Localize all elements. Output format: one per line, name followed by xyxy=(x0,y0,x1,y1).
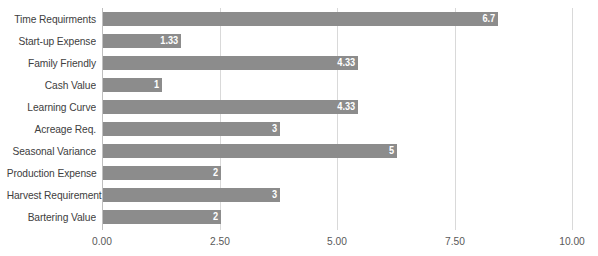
bar-value-label: 2 xyxy=(112,166,221,180)
x-axis: 0.002.505.007.5010.00 xyxy=(0,233,598,253)
bar-row: Seasonal Variance5 xyxy=(0,140,598,162)
x-tick-label: 2.50 xyxy=(210,233,230,249)
bar-row: Start-up Expense1.33 xyxy=(0,30,598,52)
x-tick-label: 10.00 xyxy=(559,233,585,249)
bar-value-label: 5 xyxy=(127,144,397,158)
bar-wrapper: 4.33 xyxy=(103,56,358,70)
bar-value-label: 3 xyxy=(117,122,280,136)
category-label: Acreage Req. xyxy=(7,118,96,140)
category-label: Production Expense xyxy=(7,162,96,184)
category-label: Cash Value xyxy=(7,74,96,96)
category-label: Time Requirments xyxy=(7,8,96,30)
bar-wrapper: 1 xyxy=(103,78,162,92)
x-tick-label: 5.00 xyxy=(327,233,347,249)
category-label: Bartering Value xyxy=(7,206,96,228)
bar-row: Time Requirments6.7 xyxy=(0,8,598,30)
category-label: Learning Curve xyxy=(7,96,96,118)
bar-row: Harvest Requirement3 xyxy=(0,184,598,206)
bar-wrapper: 1.33 xyxy=(103,34,181,48)
bar-wrapper: 5 xyxy=(103,144,397,158)
bar-value-label: 4.33 xyxy=(123,56,358,70)
bar-row: Bartering Value2 xyxy=(0,206,598,228)
bar-row: Learning Curve4.33 xyxy=(0,96,598,118)
bar-wrapper: 2 xyxy=(103,166,221,180)
bar-wrapper: 2 xyxy=(103,210,221,224)
bar-value-label: 6.7 xyxy=(135,12,498,26)
bar-value-label: 4.33 xyxy=(123,100,358,114)
bar-value-label: 1.33 xyxy=(109,34,181,48)
bar-row: Production Expense2 xyxy=(0,162,598,184)
category-label: Harvest Requirement xyxy=(7,184,96,206)
bar-chart: Time Requirments6.7Start-up Expense1.33F… xyxy=(0,0,598,256)
bar-value-label: 1 xyxy=(108,78,162,92)
bar-wrapper: 3 xyxy=(103,188,280,202)
bar-row: Acreage Req.3 xyxy=(0,118,598,140)
category-label: Seasonal Variance xyxy=(7,140,96,162)
bar-wrapper: 4.33 xyxy=(103,100,358,114)
bar-row: Cash Value1 xyxy=(0,74,598,96)
bar-value-label: 2 xyxy=(112,210,221,224)
bar-wrapper: 6.7 xyxy=(103,12,498,26)
bar-row: Family Friendly4.33 xyxy=(0,52,598,74)
bar-wrapper: 3 xyxy=(103,122,280,136)
category-label: Family Friendly xyxy=(7,52,96,74)
category-label: Start-up Expense xyxy=(7,30,96,52)
x-tick-label: 7.50 xyxy=(445,233,465,249)
x-tick-label: 0.00 xyxy=(92,233,112,249)
bar-value-label: 3 xyxy=(117,188,280,202)
